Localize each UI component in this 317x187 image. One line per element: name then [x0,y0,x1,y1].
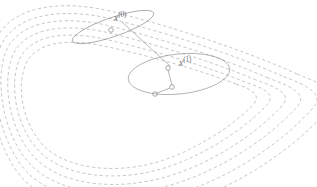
label-iterate-1-superscript: (1) [183,56,191,64]
contour-level-6 [0,6,317,187]
segment-x0-to-x1 [122,22,170,66]
label-iterate-0-superscript: (0) [118,11,126,19]
segment-c-to-d [157,88,170,93]
marker-b [166,66,171,71]
figure-canvas [0,0,317,187]
label-iterate-0: x(0) [114,12,126,24]
marker-c [170,85,175,90]
iterate-markers [109,28,175,97]
marker-a [109,28,114,33]
contour-trust-region-figure: x(0) x(1) [0,0,317,187]
label-iterate-1: x(1) [179,57,191,69]
contour-level-3 [8,28,286,185]
contour-level-4 [1,21,301,187]
segment-b-to-c [168,70,172,85]
contour-lines [0,6,317,187]
contour-level-1 [21,42,256,168]
trust-regions [69,4,232,99]
